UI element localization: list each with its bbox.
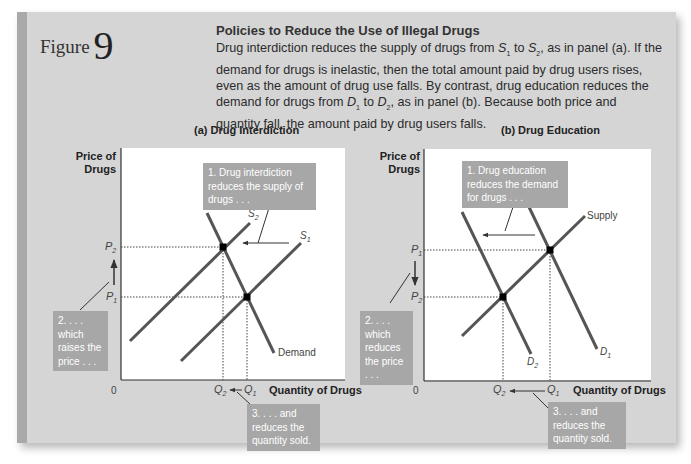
panel-b-x-axis-label: Quantity of Drugs [573, 384, 666, 396]
panel-a-s1-label: S1 [300, 230, 311, 243]
panel-b-d1-label: D1 [600, 346, 611, 359]
panel-a-p1-tick: P1 [106, 290, 117, 304]
panel-a-x-axis-label: Quantity of Drugs [269, 384, 362, 396]
panel-b-q2-tick: Q2 [493, 383, 505, 397]
panel-a-q1-tick: Q1 [244, 383, 256, 397]
panel-a-note-1: 1. Drug interdiction reduces the supply … [203, 163, 316, 210]
panel-a-p2-tick: P2 [105, 240, 116, 254]
panel-a-origin: 0 [111, 385, 117, 396]
panel-a-y-axis-label: Price ofDrugs [66, 150, 116, 176]
panel-b-p2-tick: P2 [411, 290, 422, 304]
panel-b-y-axis-label: Price ofDrugs [370, 150, 420, 176]
panel-b-q1-tick: Q1 [547, 383, 559, 397]
panel-b-p1-tick: P1 [411, 243, 422, 257]
panel-b-supply-label: Supply [587, 210, 618, 221]
panel-b-origin: 0 [413, 385, 419, 396]
panel-a-demand-label: Demand [278, 347, 316, 358]
panel-a-q2-tick: Q2 [214, 383, 226, 397]
panel-b-d2-label: D2 [527, 356, 538, 369]
panel-b-note-2: 2. . . . which reduces the price . . . [360, 311, 413, 385]
panel-a-s2-label: S2 [248, 208, 259, 221]
panel-b-note-3: 3. . . . and reduces the quantity sold. [548, 402, 626, 449]
panel-a-note-3: 3. . . . and reduces the quantity sold. [247, 404, 320, 451]
panel-a-note-2: 2. . . . which raises the price . . . [53, 311, 108, 371]
panel-b-note-1: 1. Drug education reduces the demand for… [462, 161, 568, 208]
